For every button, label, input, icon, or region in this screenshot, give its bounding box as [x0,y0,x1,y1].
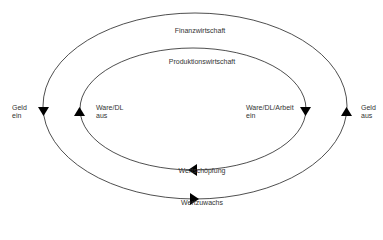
arrow-up-icon [341,107,352,116]
right-inner-label: Ware/DL/Arbeit ein [246,104,294,120]
left-inner-label: Ware/DL aus [96,104,123,120]
outer-cycle-title: Finanzwirtschaft [175,27,226,35]
arrow-down-icon [38,107,49,116]
inner-cycle-title: Produktionswirtschaft [169,58,236,66]
arrow-down-icon [300,107,311,116]
outer-cycle-bottom-label: Wertzuwachs [181,199,223,207]
left-outer-label: Geld ein [12,104,27,120]
inner-cycle-bottom-label: Wertschöpfung [179,167,226,175]
right-outer-label: Geld aus [361,104,376,120]
arrow-up-icon [74,107,85,116]
